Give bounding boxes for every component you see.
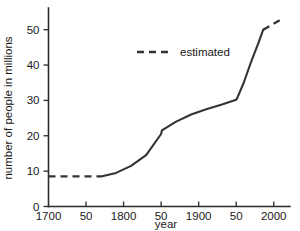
x-tick-label: 50 xyxy=(80,210,93,222)
population-line-chart: 01020304050 1700501800501900502000 estim… xyxy=(0,0,300,231)
y-tick-label: 50 xyxy=(27,24,40,36)
data-series-group xyxy=(49,18,283,176)
y-tick-label: 40 xyxy=(27,59,40,71)
y-tick-label: 30 xyxy=(27,94,40,106)
y-axis-title: number of people in millions xyxy=(2,36,14,179)
y-axis-tick-labels: 01020304050 xyxy=(27,24,40,213)
series-line-estimated-future xyxy=(263,18,283,29)
y-tick-label: 20 xyxy=(27,130,40,142)
x-tick-label: 1700 xyxy=(36,210,62,222)
x-tick-label: 1900 xyxy=(186,210,212,222)
legend-label-estimated: estimated xyxy=(180,46,230,58)
legend: estimated xyxy=(137,46,230,58)
x-tick-label: 1800 xyxy=(111,210,137,222)
x-axis-title: year xyxy=(155,218,178,230)
x-tick-label: 2000 xyxy=(261,210,287,222)
x-tick-label: 50 xyxy=(230,210,243,222)
chart-container: 01020304050 1700501800501900502000 estim… xyxy=(0,0,300,231)
y-tick-label: 10 xyxy=(27,165,40,177)
